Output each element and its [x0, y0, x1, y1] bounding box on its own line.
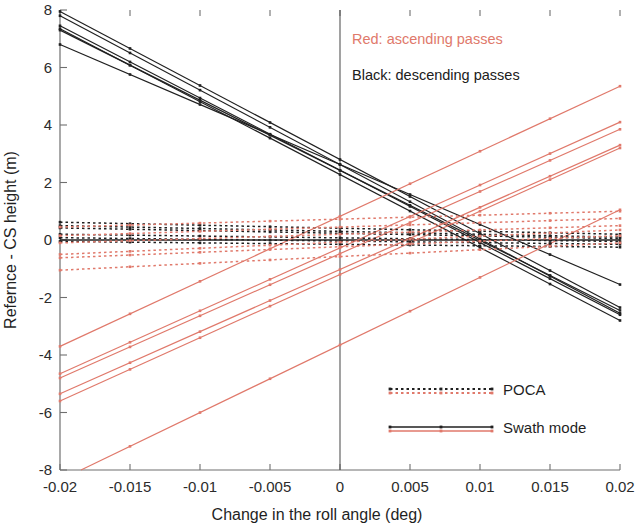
data-point-marker — [479, 244, 482, 247]
data-point-marker — [129, 47, 132, 50]
data-point-marker — [269, 121, 272, 124]
data-point-marker — [619, 121, 622, 124]
data-point-marker — [549, 283, 552, 286]
data-point-marker — [59, 29, 62, 32]
data-point-marker — [199, 237, 202, 240]
data-point-marker — [479, 276, 482, 279]
data-point-marker — [549, 277, 552, 280]
data-point-marker — [409, 224, 412, 227]
data-point-marker — [269, 377, 272, 380]
data-point-marker — [129, 341, 132, 344]
data-point-marker — [269, 235, 272, 238]
data-point-marker — [59, 345, 62, 348]
data-point-marker — [409, 182, 412, 185]
data-point-marker — [409, 231, 412, 234]
data-point-marker — [339, 268, 342, 271]
data-point-marker — [619, 309, 622, 312]
data-point-marker — [619, 234, 622, 237]
data-point-marker — [59, 269, 62, 272]
legend-marker — [491, 388, 494, 391]
y-tick-label: -8 — [39, 461, 52, 478]
data-point-marker — [269, 231, 272, 234]
data-point-marker — [479, 229, 482, 232]
x-tick-label: 0.015 — [531, 478, 569, 495]
data-point-marker — [199, 336, 202, 339]
data-point-marker — [479, 248, 482, 251]
data-point-marker — [409, 228, 412, 231]
data-point-marker — [129, 346, 132, 349]
data-point-marker — [619, 313, 622, 316]
data-point-marker — [549, 269, 552, 272]
data-point-marker — [269, 133, 272, 136]
data-point-marker — [549, 178, 552, 181]
data-point-marker — [619, 306, 622, 309]
data-point-marker — [339, 233, 342, 236]
data-point-marker — [269, 228, 272, 231]
data-point-marker — [409, 216, 412, 219]
data-point-marker — [619, 237, 622, 240]
data-point-marker — [269, 244, 272, 247]
data-point-marker — [549, 219, 552, 222]
data-point-marker — [59, 221, 62, 224]
data-point-marker — [339, 215, 342, 218]
data-point-marker — [199, 235, 202, 238]
data-point-marker — [129, 228, 132, 231]
data-point-marker — [339, 158, 342, 161]
data-point-marker — [59, 372, 62, 375]
legend-marker — [491, 426, 494, 429]
data-point-marker — [269, 225, 272, 228]
data-point-marker — [479, 210, 482, 213]
data-point-marker — [59, 226, 62, 229]
data-point-marker — [479, 235, 482, 238]
data-point-marker — [409, 200, 412, 203]
x-tick-label: -0.005 — [249, 478, 292, 495]
data-point-marker — [619, 144, 622, 147]
roll-angle-height-chart: -0.02-0.015-0.01-0.00500.0050.010.0150.0… — [0, 0, 635, 527]
data-point-marker — [619, 229, 622, 232]
y-tick-label: 4 — [44, 116, 52, 133]
data-point-marker — [479, 150, 482, 153]
data-point-marker — [409, 243, 412, 246]
data-point-marker — [269, 259, 272, 262]
data-point-marker — [549, 253, 552, 256]
data-point-marker — [199, 315, 202, 318]
data-point-marker — [619, 319, 622, 322]
data-point-marker — [479, 240, 482, 243]
data-point-marker — [129, 64, 132, 67]
data-point-marker — [549, 175, 552, 178]
data-point-marker — [549, 274, 552, 277]
data-point-marker — [549, 232, 552, 235]
data-point-marker — [129, 224, 132, 227]
data-point-marker — [129, 254, 132, 257]
data-point-marker — [129, 368, 132, 371]
data-point-marker — [409, 238, 412, 241]
data-point-marker — [549, 212, 552, 215]
data-point-marker — [269, 239, 272, 242]
data-point-marker — [59, 242, 62, 245]
legend-marker — [440, 388, 443, 391]
data-point-marker — [409, 310, 412, 313]
data-point-marker — [339, 237, 342, 240]
data-point-marker — [269, 299, 272, 302]
data-point-marker — [339, 218, 342, 221]
data-point-marker — [199, 242, 202, 245]
data-point-marker — [549, 237, 552, 240]
y-tick-label: 0 — [44, 231, 52, 248]
x-tick-label: -0.01 — [183, 478, 217, 495]
data-point-marker — [199, 222, 202, 225]
data-point-marker — [269, 278, 272, 281]
x-tick-label: -0.02 — [43, 478, 77, 495]
data-point-marker — [59, 393, 62, 396]
data-point-marker — [199, 330, 202, 333]
data-point-marker — [479, 190, 482, 193]
legend-marker — [440, 426, 443, 429]
data-point-marker — [479, 214, 482, 217]
data-point-marker — [409, 210, 412, 213]
data-point-marker — [199, 280, 202, 283]
data-point-marker — [269, 220, 272, 223]
data-point-marker — [619, 210, 622, 213]
y-tick-label: 8 — [44, 1, 52, 18]
data-point-marker — [409, 252, 412, 255]
x-tick-label: 0.02 — [605, 478, 634, 495]
figure-container: -0.02-0.015-0.01-0.00500.0050.010.0150.0… — [0, 0, 635, 527]
